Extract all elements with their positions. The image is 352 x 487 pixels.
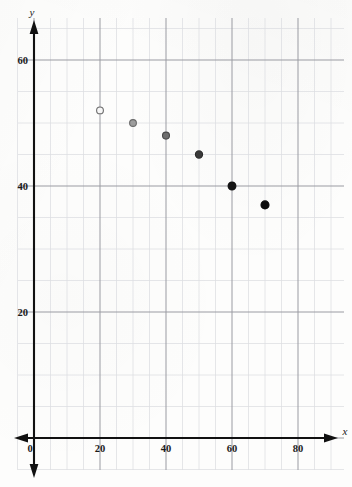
- origin-label: 0: [27, 443, 32, 454]
- x-tick-label: 40: [161, 443, 172, 454]
- y-axis-arrow-up: [30, 20, 39, 34]
- x-tick-label: 20: [95, 443, 106, 454]
- y-axis-label: y: [29, 6, 35, 18]
- minor-gridlines: [18, 18, 345, 470]
- y-tick-label: 20: [18, 307, 29, 318]
- data-point: [163, 132, 170, 139]
- scatter-plot-figure: 204060 20406080 0 y x: [0, 0, 352, 487]
- x-axis-label: x: [342, 425, 348, 437]
- plot-canvas: 204060 20406080 0 y x: [0, 0, 352, 487]
- x-tick-label: 80: [293, 443, 304, 454]
- data-point: [195, 151, 202, 158]
- data-point: [261, 201, 269, 209]
- data-point: [130, 120, 137, 127]
- y-tick-label: 60: [18, 55, 29, 66]
- x-axis-arrow-left: [14, 434, 28, 443]
- data-point: [228, 182, 236, 190]
- y-tick-label: 40: [18, 181, 29, 192]
- x-tick-label: 60: [227, 443, 238, 454]
- data-point: [97, 107, 104, 114]
- y-axis-arrow-down: [30, 464, 39, 478]
- y-axis-tick-labels: 204060: [18, 55, 29, 318]
